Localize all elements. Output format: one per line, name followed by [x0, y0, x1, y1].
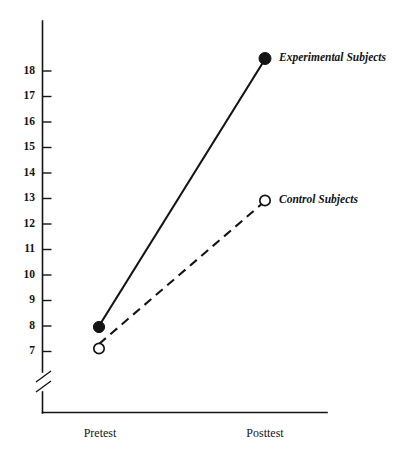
x-tick-label-posttest: Posttest: [246, 426, 284, 440]
y-tick-label-18: 18: [24, 64, 36, 76]
y-tick-label-15: 15: [24, 140, 36, 152]
data-point-experimental-posttest: [259, 53, 271, 65]
y-tick-label-16: 16: [24, 115, 36, 127]
chart-canvas: 18 17 16 15 14 13 12 11 10 9 8 7 Experim…: [0, 0, 413, 455]
line-chart: 18 17 16 15 14 13 12 11 10 9 8 7 Experim…: [0, 0, 413, 455]
y-tick-label-17: 17: [24, 89, 36, 101]
x-tick-label-pretest: Pretest: [84, 426, 117, 440]
y-tick-label-14: 14: [24, 166, 36, 178]
chart-background: [0, 0, 413, 455]
y-tick-label-11: 11: [24, 242, 35, 254]
y-tick-label-12: 12: [24, 217, 36, 229]
series-label-experimental: Experimental Subjects: [278, 51, 387, 64]
y-tick-label-9: 9: [29, 293, 35, 305]
data-point-experimental-pretest: [93, 321, 104, 332]
y-tick-label-13: 13: [24, 191, 36, 203]
data-point-control-posttest: [260, 195, 270, 205]
data-point-control-pretest: [94, 343, 104, 353]
y-tick-label-7: 7: [29, 344, 35, 356]
y-tick-label-10: 10: [24, 268, 36, 280]
series-label-control: Control Subjects: [279, 193, 358, 206]
y-tick-label-8: 8: [29, 319, 35, 331]
